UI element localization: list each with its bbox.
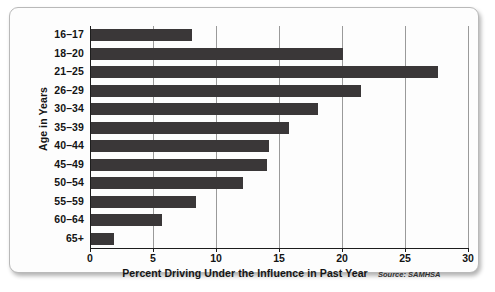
y-tick-label-8: 45–49 [14, 158, 84, 170]
bar [91, 196, 196, 208]
chart-card: 16–1718–2021–2526–2930–3435–3940–4445–49… [9, 7, 479, 273]
bar [91, 214, 162, 226]
y-tick-label-10: 55–59 [14, 195, 84, 207]
bar [91, 103, 318, 115]
gridline-30 [468, 26, 469, 248]
bar [91, 48, 343, 60]
chart-figure: 16–1718–2021–2526–2930–3435–3940–4445–49… [0, 0, 495, 292]
x-tick-label-0: 0 [72, 252, 108, 264]
gridline-25 [405, 26, 406, 248]
x-tick-label-15: 15 [261, 252, 297, 264]
bar [91, 159, 267, 171]
bar [91, 66, 438, 78]
bar [91, 140, 269, 152]
y-tick-label-2: 18–20 [14, 47, 84, 59]
y-axis-title: Age in Years [37, 64, 49, 174]
y-tick-label-3: 21–25 [14, 65, 84, 77]
x-tick-label-20: 20 [324, 252, 360, 264]
y-tick-label-11: 60–64 [14, 213, 84, 225]
source-note: Source: SAMHSA [378, 270, 441, 279]
y-tick-label-6: 35–39 [14, 121, 84, 133]
y-tick-label-9: 50–54 [14, 176, 84, 188]
x-tick-label-25: 25 [387, 252, 423, 264]
x-tick-label-10: 10 [198, 252, 234, 264]
bar [91, 122, 289, 134]
y-tick-label-1: 16–17 [14, 28, 84, 40]
y-tick-label-4: 26–29 [14, 84, 84, 96]
plot-area [90, 26, 468, 248]
bar [91, 233, 114, 245]
x-tick-label-5: 5 [135, 252, 171, 264]
y-tick-label-5: 30–34 [14, 102, 84, 114]
x-axis-title: Percent Driving Under the Influence in P… [80, 267, 410, 279]
bar [91, 29, 192, 41]
y-tick-label-7: 40–44 [14, 139, 84, 151]
bar [91, 177, 243, 189]
x-tick-label-30: 30 [450, 252, 486, 264]
y-tick-label-12: 65+ [14, 232, 84, 244]
bar [91, 85, 361, 97]
